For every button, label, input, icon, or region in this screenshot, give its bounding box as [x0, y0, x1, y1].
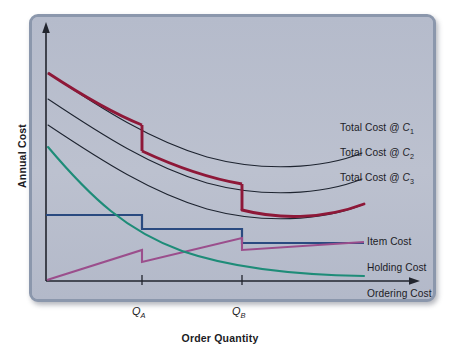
- feasible-total-cost-segment-c2: [142, 151, 242, 184]
- legend-text-total-cost-c3: Total Cost @: [340, 172, 403, 183]
- x-axis-arrowhead: [409, 277, 420, 285]
- total-cost-c1-curve: [48, 73, 362, 167]
- legend-subscript-total-cost-c2: 2: [410, 152, 414, 161]
- total-cost-c2-curve: [48, 99, 362, 193]
- x-tick-label-qa-text: Q: [132, 305, 141, 317]
- legend-label-holding-cost: Holding Cost: [367, 262, 427, 273]
- feasible-total-cost-segment-c3: [242, 204, 364, 216]
- x-axis-title: Order Quantity: [120, 332, 320, 344]
- x-tick-label-qa-sub: A: [141, 311, 146, 320]
- legend-text-total-cost-c2: Total Cost @: [340, 147, 403, 158]
- ordering-cost-curve: [48, 147, 364, 276]
- legend-subscript-total-cost-c1: 1: [410, 127, 414, 136]
- item-cost-step-line: [46, 215, 364, 243]
- y-axis-title: Annual Cost: [16, 106, 28, 206]
- x-tick-label-qa: QA: [132, 305, 146, 320]
- y-axis-arrowhead: [42, 22, 50, 33]
- legend-label-total-cost-c1: Total Cost @ C1: [340, 122, 414, 136]
- legend-label-total-cost-c3: Total Cost @ C3: [340, 172, 414, 186]
- legend-subscript-total-cost-c3: 3: [410, 177, 414, 186]
- legend-symbol-total-cost-c2: C: [403, 147, 410, 158]
- legend-text-total-cost-c1: Total Cost @: [340, 122, 403, 133]
- feasible-total-cost-segment-c1: [48, 73, 142, 125]
- x-tick-label-qb-text: Q: [232, 305, 241, 317]
- legend-label-total-cost-c2: Total Cost @ C2: [340, 147, 414, 161]
- x-tick-label-qb: QB: [232, 305, 246, 320]
- chart-frame: Total Cost @ C1 Total Cost @ C2 Total Co…: [29, 14, 436, 302]
- figure-root: Total Cost @ C1 Total Cost @ C2 Total Co…: [0, 0, 453, 356]
- legend-symbol-total-cost-c3: C: [403, 172, 410, 183]
- legend-symbol-total-cost-c1: C: [403, 122, 410, 133]
- total-cost-c3-curve: [48, 125, 362, 219]
- legend-label-item-cost: Item Cost: [367, 236, 412, 247]
- x-tick-label-qb-sub: B: [241, 311, 246, 320]
- legend-label-ordering-cost: Ordering Cost: [367, 288, 432, 299]
